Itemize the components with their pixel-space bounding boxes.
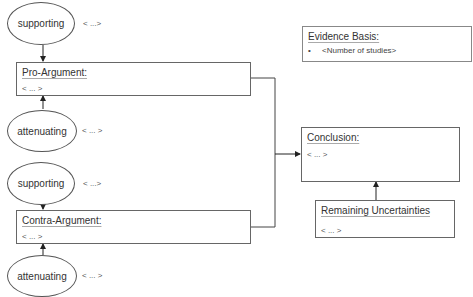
contra-argument-box: Contra-Argument: < ... > <box>16 210 251 244</box>
pro-supporting-label: supporting <box>18 18 65 29</box>
evidence-basis-box: Evidence Basis: •<Number of studies> <box>302 26 472 62</box>
contra-argument-body: < ... > <box>22 232 42 241</box>
remaining-uncertainties-body: < ... > <box>321 226 341 235</box>
contra-supporting-node: supporting <box>7 162 75 205</box>
evidence-item: <Number of studies> <box>322 46 396 55</box>
pro-attenuating-label: attenuating <box>17 126 67 137</box>
pro-argument-title: Pro-Argument: <box>22 67 87 78</box>
pro-attenuating-note: < ... > <box>82 126 102 135</box>
contra-supporting-note: < ...> <box>83 179 101 188</box>
contra-supporting-label: supporting <box>18 178 65 189</box>
evidence-basis-title: Evidence Basis: <box>308 31 379 42</box>
conclusion-title: Conclusion: <box>307 132 359 143</box>
pro-supporting-note: < ...> <box>83 19 101 28</box>
contra-attenuating-note: < ... > <box>82 271 102 280</box>
conclusion-box: Conclusion: < ... > <box>301 127 460 182</box>
pro-attenuating-node: attenuating <box>7 110 77 152</box>
pro-argument-body: < ... > <box>22 84 42 93</box>
contra-argument-title: Contra-Argument: <box>22 215 101 226</box>
pro-supporting-node: supporting <box>7 2 75 45</box>
remaining-uncertainties-title: Remaining Uncertainties <box>321 205 430 216</box>
evidence-list: •<Number of studies> <box>308 46 396 55</box>
bullet-icon: • <box>308 46 322 55</box>
remaining-uncertainties-box: Remaining Uncertainties < ... > <box>315 200 455 238</box>
conclusion-body: < ... > <box>307 150 327 159</box>
contra-attenuating-label: attenuating <box>17 271 67 282</box>
pro-argument-box: Pro-Argument: < ... > <box>16 62 251 96</box>
contra-attenuating-node: attenuating <box>7 255 77 297</box>
